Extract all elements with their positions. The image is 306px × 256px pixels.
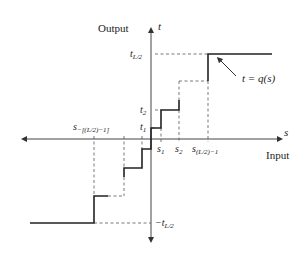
t-axis-var: t [158,20,162,32]
tick-t-top: tL/2 [130,48,143,61]
input-axis-title: Input [266,149,289,161]
s-axis-var: s [284,126,288,138]
tick-t-bottom: −tL/2 [155,217,174,230]
tick-s2: s2 [175,143,183,156]
quantizer-diagram: Output t s Input tL/2 t2 t1 −tL/2 s1 s2 … [0,0,306,256]
tick-t2: t2 [140,104,147,117]
tick-s-neg: s−[(L/2)−1] [73,121,110,134]
tick-t1: t1 [140,121,146,134]
tick-s1: s1 [157,143,164,156]
tick-s-last: s(L/2)−1 [192,143,218,156]
output-axis-title: Output [98,22,129,34]
function-label: t = q(s) [242,72,275,85]
label-pointer-arrow [219,59,236,76]
